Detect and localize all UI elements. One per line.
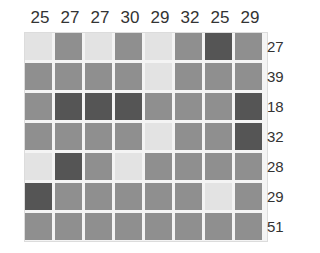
grid-cell[interactable] (85, 183, 112, 210)
grid-cell[interactable] (235, 93, 262, 120)
grid-cell[interactable] (85, 63, 112, 90)
grid-cell[interactable] (85, 153, 112, 180)
grid-cell[interactable] (235, 33, 262, 60)
grid-cell[interactable] (55, 123, 82, 150)
grid-cell[interactable] (25, 123, 52, 150)
column-sum-label: 29 (145, 8, 175, 28)
grid-cell[interactable] (25, 93, 52, 120)
row-sum-label: 32 (267, 123, 284, 150)
grid-cell[interactable] (205, 213, 232, 240)
grid-cell[interactable] (115, 33, 142, 60)
grid-cell[interactable] (115, 63, 142, 90)
grid-cell[interactable] (235, 123, 262, 150)
grid-cell[interactable] (175, 33, 202, 60)
grid-cell[interactable] (85, 93, 112, 120)
grid-cell[interactable] (115, 153, 142, 180)
grid-cell[interactable] (145, 93, 172, 120)
column-sum-label: 27 (85, 8, 115, 28)
grid-cell[interactable] (85, 33, 112, 60)
grid-cell[interactable] (55, 33, 82, 60)
grid-cell[interactable] (25, 213, 52, 240)
row-sums: 27391832282951 (267, 33, 284, 240)
grid-cell[interactable] (175, 63, 202, 90)
grid-cell[interactable] (235, 63, 262, 90)
row-sum-label: 28 (267, 153, 284, 180)
row-sum-label: 39 (267, 63, 284, 90)
grid-cell[interactable] (145, 153, 172, 180)
grid-cell[interactable] (235, 213, 262, 240)
column-sum-label: 32 (175, 8, 205, 28)
grid-cell[interactable] (25, 33, 52, 60)
grid-cell[interactable] (25, 183, 52, 210)
grid-cell[interactable] (175, 183, 202, 210)
grid-cell[interactable] (205, 153, 232, 180)
grid-cell[interactable] (55, 213, 82, 240)
grid-cell[interactable] (205, 93, 232, 120)
row-sum-label: 51 (267, 213, 284, 240)
grid-cell[interactable] (55, 93, 82, 120)
row-sum-label: 29 (267, 183, 284, 210)
grid-cell[interactable] (145, 63, 172, 90)
grid-cell[interactable] (145, 213, 172, 240)
grid-cell[interactable] (175, 93, 202, 120)
grid-cell[interactable] (115, 123, 142, 150)
grid-cell[interactable] (55, 63, 82, 90)
grid-cell[interactable] (55, 183, 82, 210)
column-sum-label: 25 (205, 8, 235, 28)
grid-cell[interactable] (145, 123, 172, 150)
grid-cell[interactable] (115, 93, 142, 120)
puzzle-grid (25, 33, 262, 240)
row-sum-label: 27 (267, 33, 284, 60)
row-sum-label: 18 (267, 93, 284, 120)
column-sum-label: 27 (55, 8, 85, 28)
column-sums: 2527273029322529 (25, 8, 265, 28)
grid-cell[interactable] (145, 183, 172, 210)
grid-cell[interactable] (235, 183, 262, 210)
grid-cell[interactable] (175, 213, 202, 240)
grid-cell[interactable] (25, 153, 52, 180)
grid-cell[interactable] (25, 63, 52, 90)
grid-cell[interactable] (175, 153, 202, 180)
grid-cell[interactable] (175, 123, 202, 150)
grid-cell[interactable] (205, 63, 232, 90)
grid-cell[interactable] (55, 153, 82, 180)
grid-cell[interactable] (85, 213, 112, 240)
column-sum-label: 30 (115, 8, 145, 28)
grid-cell[interactable] (205, 33, 232, 60)
grid-cell[interactable] (115, 183, 142, 210)
grid-cell[interactable] (145, 33, 172, 60)
grid-cell[interactable] (235, 153, 262, 180)
column-sum-label: 29 (235, 8, 265, 28)
grid-cell[interactable] (85, 123, 112, 150)
grid-cell[interactable] (115, 213, 142, 240)
column-sum-label: 25 (25, 8, 55, 28)
grid-cell[interactable] (205, 183, 232, 210)
grid-cell[interactable] (205, 123, 232, 150)
